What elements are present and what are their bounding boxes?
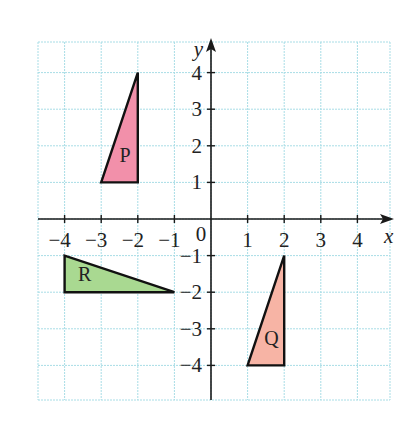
axes [38,38,394,400]
y-tick-label: −2 [180,280,202,304]
y-tick-label: 4 [192,61,203,85]
x-tick-label: −3 [85,228,107,252]
y-tick-label: −3 [180,317,202,341]
x-tick-label: 1 [242,228,253,252]
triangle-label: R [78,263,92,285]
origin-label: 0 [196,222,207,246]
triangle-label: Q [264,327,279,349]
x-tick-label: 3 [316,228,327,252]
y-axis-label: y [192,37,204,61]
triangle-r: R [65,256,175,293]
triangle-p: P [101,73,138,183]
x-tick-label: −1 [158,228,180,252]
y-tick-label: 3 [192,97,203,121]
coordinate-plane: PQR −4−3−2−112344321−1−2−3−40xy [0,0,412,430]
axis-labels: −4−3−2−112344321−1−2−3−40xy [48,37,394,377]
coordinate-grid-diagram: PQR −4−3−2−112344321−1−2−3−40xy [0,0,412,430]
x-tick-label: 4 [352,228,363,252]
x-tick-label: 2 [279,228,290,252]
x-tick-label: −2 [122,228,144,252]
triangle-q: Q [248,256,285,366]
y-tick-label: 2 [192,134,203,158]
y-tick-label: −4 [180,353,203,377]
y-tick-label: 1 [192,170,203,194]
x-axis-label: x [383,224,394,248]
x-tick-label: −4 [48,228,71,252]
grid-lines [38,42,390,400]
triangle-label: P [119,144,130,166]
y-tick-label: −1 [180,244,202,268]
